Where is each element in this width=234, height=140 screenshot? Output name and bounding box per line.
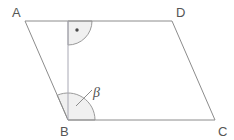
right-angle-dot-icon <box>75 28 78 31</box>
vertex-label-b: B <box>60 124 69 139</box>
edge-dc <box>172 21 215 120</box>
right-angle-arc <box>68 21 92 45</box>
vertex-label-c: C <box>218 124 227 139</box>
vertex-label-a: A <box>12 5 21 20</box>
edge-ba <box>25 21 68 120</box>
angle-label-beta: β <box>92 85 100 100</box>
vertex-label-d: D <box>176 5 185 20</box>
parallelogram-diagram: A D B C β <box>0 0 234 140</box>
beta-angle-arc <box>57 93 95 120</box>
geometry-figure: A D B C β <box>0 0 234 140</box>
